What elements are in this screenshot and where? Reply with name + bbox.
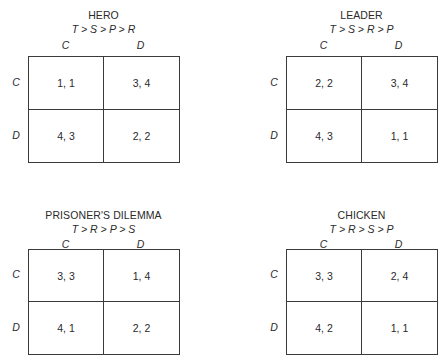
payoff-cell-cc: 1, 1 (29, 57, 104, 110)
payoff-matrix: 2, 2 3, 4 4, 3 1, 1 (286, 56, 438, 163)
row-label-d: D (264, 321, 284, 333)
column-label-c: C (28, 39, 103, 51)
payoff-cell-dd: 2, 2 (104, 302, 179, 354)
payoff-cell-cc: 3, 3 (29, 250, 104, 302)
payoff-cell-dc: 4, 3 (29, 110, 104, 163)
column-label-d: D (103, 39, 178, 51)
payoff-matrix: 3, 3 2, 4 4, 2 1, 1 (286, 249, 438, 355)
row-label-c: C (6, 76, 26, 88)
payoff-matrix: 3, 3 1, 4 4, 1 2, 2 (28, 249, 180, 355)
row-label-c: C (264, 76, 284, 88)
payoff-ranking: T > R > P > S (28, 223, 179, 235)
payoff-ranking: T > S > R > P (286, 23, 437, 35)
payoff-ranking: T > R > S > P (286, 223, 437, 235)
payoff-cell-cd: 1, 4 (104, 250, 179, 302)
column-label-c: C (286, 39, 361, 51)
row-label-c: C (264, 268, 284, 280)
payoff-ranking: T > S > P > R (28, 23, 179, 35)
row-label-c: C (6, 268, 26, 280)
payoff-cell-cd: 3, 4 (362, 57, 437, 110)
payoff-cell-dd: 1, 1 (362, 110, 437, 163)
game-title: HERO (28, 9, 179, 21)
game-title: CHICKEN (286, 209, 437, 221)
payoff-cell-cd: 2, 4 (362, 250, 437, 302)
payoff-cell-cc: 2, 2 (287, 57, 362, 110)
payoff-cell-cd: 3, 4 (104, 57, 179, 110)
row-label-d: D (6, 321, 26, 333)
payoff-cell-dc: 4, 3 (287, 110, 362, 163)
payoff-cell-dc: 4, 1 (29, 302, 104, 354)
payoff-cell-dd: 2, 2 (104, 110, 179, 163)
game-title: PRISONER'S DILEMMA (28, 209, 179, 221)
payoff-cell-dc: 4, 2 (287, 302, 362, 354)
column-label-d: D (361, 39, 436, 51)
payoff-cell-cc: 3, 3 (287, 250, 362, 302)
game-title: LEADER (286, 9, 437, 21)
payoff-cell-dd: 1, 1 (362, 302, 437, 354)
payoff-matrix: 1, 1 3, 4 4, 3 2, 2 (28, 56, 180, 163)
row-label-d: D (264, 129, 284, 141)
row-label-d: D (6, 129, 26, 141)
